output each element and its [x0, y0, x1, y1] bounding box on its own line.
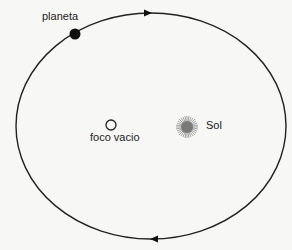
planet-label: planeta [42, 10, 78, 22]
sun-label: Sol [206, 119, 222, 131]
arrow-right-icon [144, 10, 152, 17]
empty-focus-label: foco vacio [90, 131, 140, 143]
sun-icon [176, 116, 198, 138]
empty-focus-circle [106, 120, 116, 130]
orbit-diagram [0, 0, 292, 250]
elliptical-orbit [16, 13, 286, 239]
arrow-left-icon [150, 236, 158, 243]
planet-dot [70, 29, 81, 40]
